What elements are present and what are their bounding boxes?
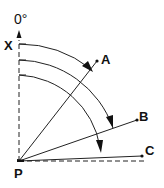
point-a-label: A — [101, 52, 111, 67]
point-c-marker — [140, 154, 143, 157]
point-a-marker — [95, 59, 98, 62]
arc-c-arrow-icon — [96, 140, 103, 153]
ray-pc — [19, 156, 142, 161]
point-c-label: C — [145, 143, 155, 158]
arc-to-c — [19, 75, 100, 147]
arc-to-b — [19, 60, 113, 128]
arc-a-arrow-icon — [82, 61, 93, 72]
ray-pb — [19, 120, 137, 161]
arc-b-arrow-icon — [106, 115, 113, 128]
arc-to-a — [19, 44, 91, 69]
point-b-label: B — [139, 109, 148, 124]
origin-p-label: P — [14, 166, 23, 181]
bearing-diagram: 0° X A B C P — [0, 0, 164, 188]
reference-arrow-icon — [17, 30, 22, 38]
angle-zero-label: 0° — [14, 11, 27, 27]
reference-x-label: X — [4, 38, 13, 53]
